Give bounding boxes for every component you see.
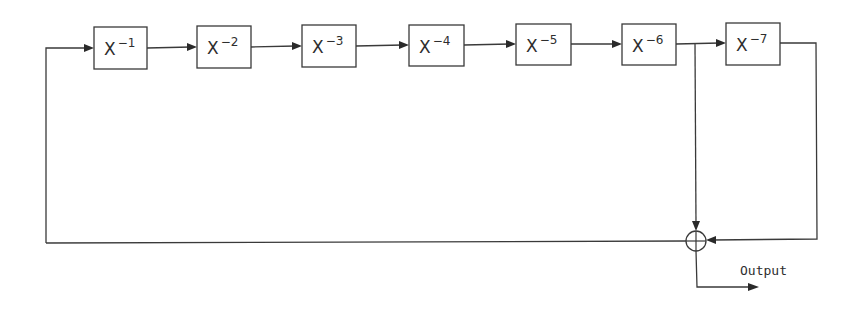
delay-block-2: X−2: [197, 26, 251, 68]
arrow-into-d1-icon: [84, 44, 94, 52]
arrow-into-summer-top-icon: [692, 221, 700, 231]
feedback-shift-register-diagram: X−1 X−2 X−3 X−4 X−5 X−6 X−7: [0, 0, 860, 311]
delay-block-7: X−7: [726, 23, 780, 65]
wire-d6-d7: [676, 43, 720, 44]
wire-d4-d5: [464, 44, 510, 45]
wire-feedback-to-d1: [46, 48, 88, 243]
delay-block-1: X−1: [94, 27, 147, 69]
wire-d7-to-summer: [712, 43, 817, 240]
summer-xor-icon: [686, 231, 706, 251]
arrow-into-summer-right-icon: [706, 236, 716, 244]
arrow-output-icon: [748, 283, 759, 291]
wire-summer-to-feedback: [46, 241, 686, 243]
arrow-into-d4-icon: [399, 41, 409, 49]
wire-d1-d2: [147, 47, 191, 48]
wire-tap-d6-to-summer: [695, 44, 696, 226]
delay-block-3: X−3: [302, 25, 356, 67]
forward-wires: [46, 43, 817, 287]
arrow-into-d3-icon: [292, 42, 302, 50]
output-label: Output: [740, 263, 787, 278]
wire-d3-d4: [356, 45, 403, 46]
delay-block-4: X−4: [409, 25, 464, 66]
arrowheads: [84, 39, 759, 291]
arrow-into-d2-icon: [187, 43, 197, 51]
wire-d2-d3: [251, 46, 296, 47]
delay-block-6: X−6: [622, 24, 676, 65]
arrow-into-d7-icon: [716, 39, 726, 47]
arrow-into-d6-icon: [612, 40, 622, 48]
delay-block-5: X−5: [516, 24, 571, 65]
arrow-into-d5-icon: [506, 40, 516, 48]
